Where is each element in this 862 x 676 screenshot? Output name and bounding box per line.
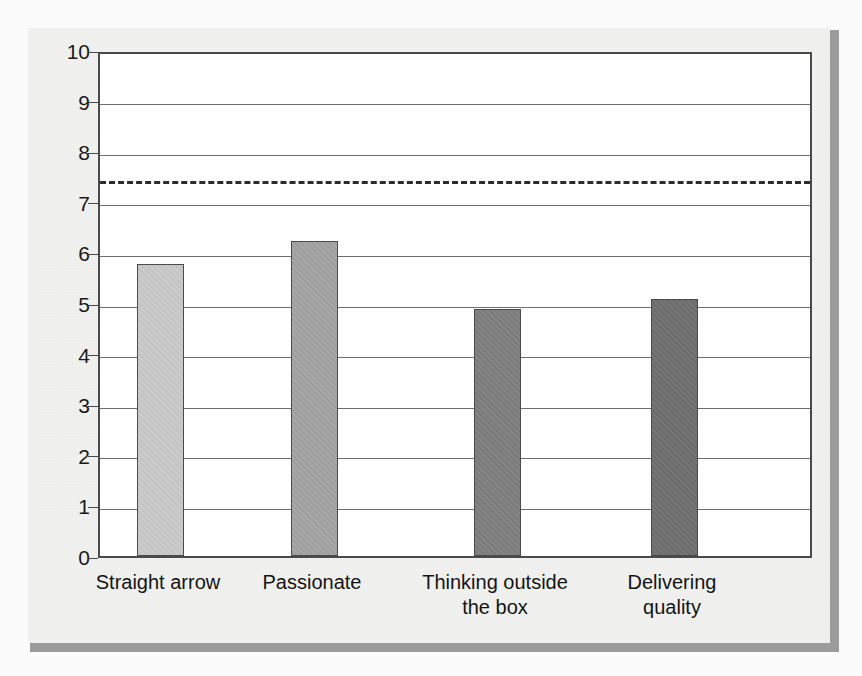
x-category-label-4-line-1: Delivering bbox=[562, 570, 782, 595]
bar-2 bbox=[291, 241, 338, 556]
y-tick-mark-6 bbox=[88, 254, 98, 255]
y-tick-mark-2 bbox=[88, 456, 98, 457]
gridline-6 bbox=[100, 256, 810, 257]
y-tick-label-7: 7 bbox=[50, 193, 90, 214]
y-tick-mark-4 bbox=[88, 355, 98, 356]
y-tick-label-3: 3 bbox=[50, 395, 90, 416]
gridline-1 bbox=[100, 509, 810, 510]
y-tick-mark-3 bbox=[88, 406, 98, 407]
y-tick-mark-10 bbox=[88, 52, 98, 53]
bar-chart-figure: 012345678910 Straight arrowPassionateThi… bbox=[0, 0, 862, 676]
y-tick-label-10: 10 bbox=[50, 41, 90, 62]
y-tick-label-8: 8 bbox=[50, 142, 90, 163]
y-tick-label-4: 4 bbox=[50, 345, 90, 366]
y-tick-label-1: 1 bbox=[50, 496, 90, 517]
y-tick-label-2: 2 bbox=[50, 446, 90, 467]
y-tick-label-9: 9 bbox=[50, 92, 90, 113]
bar-4 bbox=[651, 299, 698, 556]
gridline-2 bbox=[100, 458, 810, 459]
y-axis-tick-labels: 012345678910 bbox=[48, 52, 90, 558]
y-tick-label-5: 5 bbox=[50, 294, 90, 315]
gridline-3 bbox=[100, 408, 810, 409]
gridline-9 bbox=[100, 104, 810, 105]
gridline-7 bbox=[100, 205, 810, 206]
y-tick-label-0: 0 bbox=[50, 547, 90, 568]
bar-3 bbox=[474, 309, 521, 556]
y-tick-label-6: 6 bbox=[50, 243, 90, 264]
x-category-label-4: Deliveringquality bbox=[562, 570, 782, 620]
x-category-label-4-line-2: quality bbox=[562, 595, 782, 620]
gridline-8 bbox=[100, 155, 810, 156]
y-tick-mark-1 bbox=[88, 507, 98, 508]
plot-area bbox=[98, 52, 812, 558]
y-tick-mark-5 bbox=[88, 305, 98, 306]
y-tick-mark-9 bbox=[88, 102, 98, 103]
gridline-5 bbox=[100, 307, 810, 308]
bar-1 bbox=[137, 264, 184, 556]
benchmark-line bbox=[100, 181, 810, 184]
y-tick-mark-8 bbox=[88, 153, 98, 154]
gridline-4 bbox=[100, 357, 810, 358]
y-tick-mark-7 bbox=[88, 203, 98, 204]
y-tick-mark-0 bbox=[88, 558, 98, 559]
